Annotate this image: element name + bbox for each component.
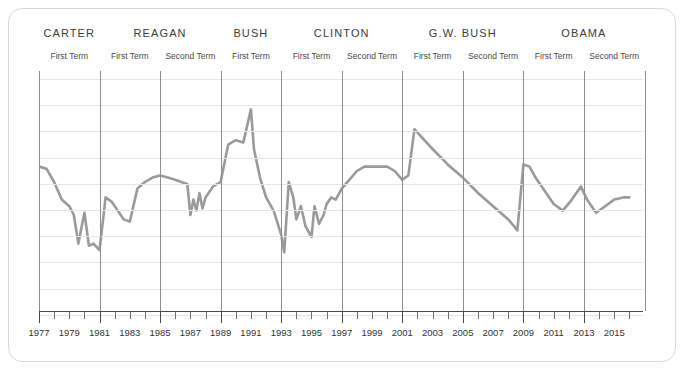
term-divider <box>402 71 403 311</box>
x-axis-tick <box>357 312 358 319</box>
term-divider <box>584 71 585 311</box>
term-label: First Term <box>100 51 161 61</box>
x-axis-tick <box>387 312 388 319</box>
x-axis-tick <box>614 312 615 319</box>
x-axis-label: 1979 <box>59 327 80 338</box>
x-axis-tick <box>523 312 524 323</box>
term-divider <box>221 71 222 311</box>
x-axis-label: 2015 <box>604 327 625 338</box>
president-group: CLINTONFirst TermSecond Term <box>281 9 402 71</box>
x-axis-tick <box>448 312 449 319</box>
x-axis-label: 1985 <box>150 327 171 338</box>
term-label: First Term <box>281 51 342 61</box>
president-group: G.W. BUSHFirst TermSecond Term <box>402 9 523 71</box>
term-label: First Term <box>39 51 100 61</box>
x-axis-tick <box>160 312 161 323</box>
x-axis-tick <box>100 312 101 323</box>
x-axis-label: 1977 <box>28 327 49 338</box>
term-label: Second Term <box>342 51 403 61</box>
x-axis-label: 1993 <box>271 327 292 338</box>
term-divider <box>100 71 101 311</box>
x-axis-tick <box>296 312 297 319</box>
term-divider <box>281 71 282 311</box>
x-axis-tick <box>478 312 479 319</box>
x-axis-tick <box>281 312 282 323</box>
x-axis-tick <box>251 312 252 319</box>
president-name: OBAMA <box>523 27 644 39</box>
president-group: BUSHFirst Term <box>221 9 282 71</box>
term-divider <box>463 71 464 311</box>
x-axis-tick <box>554 312 555 319</box>
president-name: BUSH <box>221 27 282 39</box>
x-axis-label: 1999 <box>361 327 382 338</box>
x-axis-label: 2013 <box>573 327 594 338</box>
x-axis-tick <box>175 312 176 319</box>
x-axis-tick <box>221 312 222 323</box>
x-axis-tick <box>417 312 418 319</box>
x-axis-label: 2003 <box>422 327 443 338</box>
term-label: Second Term <box>160 51 221 61</box>
term-divider <box>160 71 161 311</box>
x-axis-tick <box>84 312 85 319</box>
x-axis-tick <box>463 312 464 323</box>
term-label: First Term <box>402 51 463 61</box>
x-axis-label: 1997 <box>331 327 352 338</box>
chart-card: CARTERFirst TermREAGANFirst TermSecond T… <box>8 8 676 362</box>
x-axis-label: 2001 <box>392 327 413 338</box>
x-axis-tick <box>206 312 207 319</box>
term-divider <box>342 71 343 311</box>
president-header-band: CARTERFirst TermREAGANFirst TermSecond T… <box>9 9 677 71</box>
term-divider <box>523 71 524 311</box>
x-axis-tick <box>115 312 116 319</box>
president-group: REAGANFirst TermSecond Term <box>100 9 221 71</box>
x-axis-label: 2009 <box>513 327 534 338</box>
x-axis-tick <box>569 312 570 319</box>
x-axis-label: 1981 <box>89 327 110 338</box>
x-axis-label: 1987 <box>180 327 201 338</box>
x-axis-label: 1989 <box>210 327 231 338</box>
plot-area <box>39 71 643 311</box>
x-axis-tick <box>145 312 146 319</box>
term-label: Second Term <box>584 51 645 61</box>
president-name: REAGAN <box>100 27 221 39</box>
term-label: First Term <box>221 51 282 61</box>
x-axis-tick <box>54 312 55 319</box>
president-name: CLINTON <box>281 27 402 39</box>
term-label: Second Term <box>463 51 524 61</box>
term-label: First Term <box>523 51 584 61</box>
x-axis-tick <box>130 312 131 319</box>
term-divider <box>645 71 646 311</box>
x-axis-tick <box>433 312 434 319</box>
x-axis-tick <box>539 312 540 319</box>
x-axis-label: 2011 <box>543 327 563 338</box>
x-axis-tick <box>327 312 328 319</box>
x-axis-tick <box>629 312 630 319</box>
x-axis-label: 1991 <box>240 327 261 338</box>
x-axis-tick <box>342 312 343 323</box>
x-axis-tick <box>39 312 40 323</box>
x-axis-tick <box>311 312 312 319</box>
x-axis-tick <box>584 312 585 323</box>
x-axis-tick <box>372 312 373 319</box>
president-group: CARTERFirst Term <box>39 9 100 71</box>
x-axis-tick <box>493 312 494 319</box>
president-name: CARTER <box>39 27 100 39</box>
president-name: G.W. BUSH <box>402 27 523 39</box>
x-axis-tick <box>236 312 237 319</box>
x-axis-tick <box>508 312 509 319</box>
x-axis-label: 1995 <box>301 327 322 338</box>
x-axis-tick <box>599 312 600 319</box>
x-axis-tick <box>69 312 70 319</box>
x-axis-tick <box>190 312 191 319</box>
x-axis-label: 2007 <box>483 327 504 338</box>
term-divider <box>39 71 40 311</box>
x-axis-tick <box>402 312 403 323</box>
president-group: OBAMAFirst TermSecond Term <box>523 9 644 71</box>
x-axis-label: 2005 <box>452 327 473 338</box>
x-axis-tick <box>266 312 267 319</box>
x-axis-label: 1983 <box>119 327 140 338</box>
